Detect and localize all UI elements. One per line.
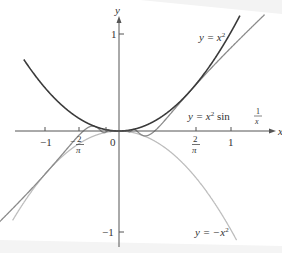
x-tick-label-2pi-den: π <box>192 145 197 155</box>
page-edge-top <box>140 0 282 14</box>
function-plot-figure: y x −1 − 2 π 0 2 π 1 1 −1 y = x2 y = x2 … <box>0 0 282 253</box>
curve-x-2-sin-1-x- <box>0 15 265 231</box>
page-edge-bottom <box>0 240 282 253</box>
curve-label-x2sin: y = x2 sin <box>187 110 230 122</box>
x-tick-label-neg1: −1 <box>40 136 52 148</box>
y-tick-label-1: 1 <box>111 28 117 40</box>
curve-label-x2: y = x2 <box>198 31 226 43</box>
y-axis-arrow-icon <box>117 16 122 23</box>
y-tick-label-neg1: −1 <box>102 226 114 238</box>
origin-label: 0 <box>110 136 116 148</box>
x-tick-label-1: 1 <box>228 136 234 148</box>
x-tick-label-neg2pi-num: 2 <box>77 134 82 144</box>
y-axis-label: y <box>114 4 120 16</box>
x-axis-label: x <box>277 125 282 137</box>
x-axis-arrow-icon <box>269 129 276 134</box>
plot-canvas: y x −1 − 2 π 0 2 π 1 1 −1 y = x2 y = x2 … <box>0 0 282 253</box>
curve-label-x2sin-num: 1 <box>256 107 260 116</box>
curves-group <box>0 15 265 241</box>
curve-label-x2sin-den: x <box>254 117 259 126</box>
curve-label-negx2: y = −x2 <box>194 226 229 238</box>
x-tick-label-neg2pi-den: π <box>76 145 81 155</box>
x-tick-label-neg2pi-sign: − <box>70 136 75 146</box>
x-tick-label-2pi-num: 2 <box>193 134 198 144</box>
